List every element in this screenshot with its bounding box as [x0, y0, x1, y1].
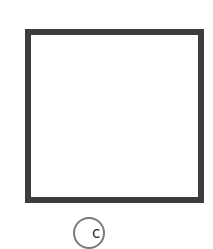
option-label: c: [92, 226, 100, 241]
square-shape: [25, 29, 204, 203]
option-circle[interactable]: c: [73, 217, 105, 249]
